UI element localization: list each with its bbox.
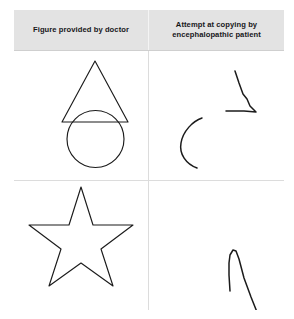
arc-stroke bbox=[181, 118, 202, 168]
cell-doctor-triangle-circle bbox=[14, 51, 148, 180]
triangle-shape bbox=[62, 61, 128, 122]
cell-doctor-star bbox=[14, 181, 148, 310]
patient-attempt-star bbox=[149, 181, 283, 310]
star-shape bbox=[29, 187, 133, 286]
figure-grid bbox=[14, 51, 284, 310]
column-header-patient: Attempt at copying by encephalopathic pa… bbox=[149, 10, 284, 50]
cell-patient-attempt-star bbox=[149, 181, 283, 310]
patient-attempt-triangle-circle bbox=[149, 51, 283, 180]
five-pointed-star-figure bbox=[14, 181, 148, 310]
angular-chevron-stroke bbox=[226, 71, 256, 112]
circle-shape bbox=[67, 111, 124, 168]
column-header-doctor: Figure provided by doctor bbox=[14, 10, 149, 50]
triangle-over-circle-figure bbox=[14, 51, 148, 180]
spike-stroke bbox=[229, 250, 259, 310]
cell-patient-attempt-triangle-circle bbox=[149, 51, 283, 180]
table-header-row: Figure provided by doctor Attempt at cop… bbox=[14, 10, 284, 50]
comparison-figure-panel: Figure provided by doctor Attempt at cop… bbox=[14, 10, 284, 310]
